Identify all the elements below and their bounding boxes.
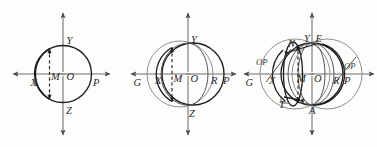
figure-1-label-M: M (50, 71, 61, 82)
figure-1-label-Z: Z (66, 105, 72, 116)
figure-2-group: G X M O R P Y Z (131, 13, 236, 135)
figure-1-label-X: X (30, 77, 38, 88)
figure-3-label-M: M (296, 73, 307, 84)
figure-board: X P Y Z O M G X (0, 0, 377, 147)
figure-3-label-R: R (332, 75, 340, 86)
figure-3-label-N: N (287, 38, 296, 49)
figure-2-label-X: X (154, 75, 162, 86)
figure-3-label-OP-right: OP (344, 61, 356, 71)
figure-2-label-R: R (210, 75, 218, 86)
figure-3-label-X: X (268, 75, 276, 86)
figure-1-label-P: P (92, 77, 100, 88)
figure-2-label-Z: Z (189, 108, 195, 119)
figure-2-label-G: G (134, 77, 142, 88)
figure-3-label-A: A (308, 105, 316, 116)
figure-1-group: X P Y Z O M (13, 13, 110, 135)
figure-3-label-E: E (315, 33, 323, 44)
figure-2-label-O: O (191, 73, 199, 84)
figure-3-label-OP-left: OP (256, 57, 268, 67)
diagram-canvas: X P Y Z O M G X (0, 0, 377, 147)
figure-1-label-O: O (67, 71, 75, 82)
figure-3-group: G X M O R P Y E N T A OP OP (244, 13, 374, 135)
figure-2-label-P: P (222, 75, 230, 86)
figure-3-label-O: O (314, 73, 322, 84)
figure-3-label-G: G (246, 77, 254, 88)
figure-3-label-P: P (343, 75, 351, 86)
figure-2-label-M: M (173, 73, 184, 84)
figure-1-label-Y: Y (67, 35, 74, 46)
